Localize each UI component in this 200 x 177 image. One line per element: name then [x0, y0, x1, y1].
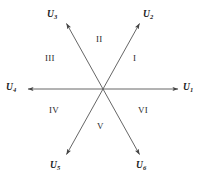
vector-label-u4: U4: [6, 83, 16, 93]
sector-label-iii: III: [45, 54, 55, 63]
sector-label-ii: II: [96, 35, 103, 44]
vector-label-u1: U1: [183, 83, 193, 93]
sector-label-iv: IV: [49, 106, 59, 115]
vector-label-u3: U3: [47, 10, 57, 20]
vector-line-u6: [103, 89, 140, 155]
vector-label-u2: U2: [143, 10, 153, 20]
sector-label-i: I: [133, 54, 136, 63]
sector-label-vi: VI: [138, 106, 148, 115]
vector-label-u5: U5: [50, 161, 60, 171]
vector-sector-diagram: U1 U2 U3 U4 U5 U6 I II III IV V VI: [0, 0, 200, 177]
vector-axes-svg: [0, 0, 200, 177]
vector-label-u6: U6: [136, 161, 146, 171]
sector-label-v: V: [97, 122, 104, 131]
